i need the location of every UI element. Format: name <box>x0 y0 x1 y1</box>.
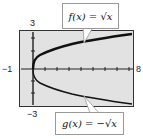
curve-f <box>33 34 132 69</box>
f-label-box: f(x) = √x <box>62 3 119 29</box>
curve-g <box>33 69 132 104</box>
f-label: f(x) = √x <box>69 11 113 22</box>
g-label: g(x) = −√x <box>62 118 117 129</box>
g-label-box: g(x) = −√x <box>55 112 124 135</box>
